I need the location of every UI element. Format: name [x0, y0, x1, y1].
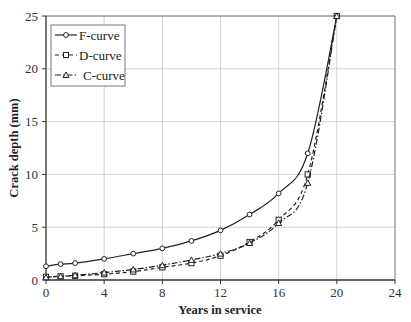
x-tick-label: 0 [43, 285, 50, 300]
x-axis-title: Years in service [178, 303, 262, 317]
y-tick-label: 20 [25, 61, 38, 76]
circle-marker-icon [64, 33, 69, 38]
triangle-marker-icon [188, 257, 194, 263]
y-tick-label: 0 [32, 273, 39, 288]
line-chart: 0510152025 04812162024 Years in service … [0, 0, 411, 322]
legend: F-curve D-curve C-curve [51, 25, 125, 86]
y-tick-label: 25 [25, 9, 38, 24]
y-axis-ticks: 0510152025 [25, 9, 46, 288]
y-tick-label: 5 [32, 220, 39, 235]
x-tick-label: 16 [272, 285, 286, 300]
x-tick-label: 8 [159, 285, 166, 300]
y-tick-label: 10 [25, 167, 38, 182]
legend-label-d-curve: D-curve [79, 48, 122, 63]
circle-marker-icon [218, 228, 223, 233]
y-tick-label: 15 [25, 114, 38, 129]
circle-marker-icon [247, 212, 252, 217]
x-tick-label: 20 [330, 285, 343, 300]
circle-marker-icon [189, 239, 194, 244]
x-axis-ticks: 04812162024 [43, 280, 402, 300]
circle-marker-icon [73, 261, 78, 266]
y-axis-title: Crack depth (mm) [7, 98, 21, 197]
x-tick-label: 24 [389, 285, 403, 300]
circle-marker-icon [102, 256, 107, 261]
x-tick-label: 12 [214, 285, 227, 300]
circle-marker-icon [58, 262, 63, 267]
triangle-marker-icon [305, 180, 311, 186]
circle-marker-icon [160, 246, 165, 251]
circle-marker-icon [131, 251, 136, 256]
circle-marker-icon [276, 191, 281, 196]
circle-marker-icon [44, 264, 49, 269]
circle-marker-icon [305, 151, 310, 156]
x-tick-label: 4 [101, 285, 108, 300]
legend-label-f-curve: F-curve [79, 28, 120, 43]
legend-label-c-curve: C-curve [83, 68, 125, 83]
square-marker-icon [64, 53, 69, 58]
